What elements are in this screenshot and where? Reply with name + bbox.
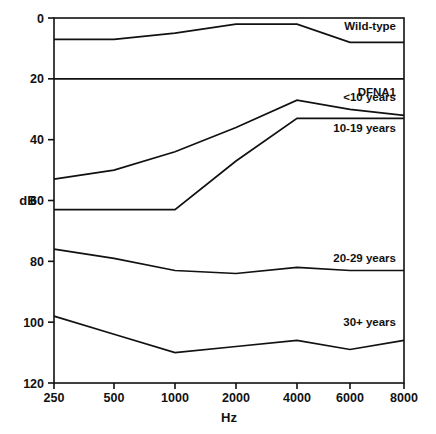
series-label: 30+ years [343, 316, 396, 328]
x-tick-label: 6000 [336, 391, 364, 405]
y-tick-label: 100 [23, 316, 44, 330]
x-axis-tick-labels: 25050010002000400060008000 [44, 391, 418, 405]
series-labels: Wild-type<10 years10-19 years20-29 years… [333, 20, 396, 328]
y-tick-label: 20 [30, 72, 44, 86]
group-label-dfna1: DFNA1 [358, 86, 397, 98]
y-tick-label: 0 [37, 12, 44, 26]
series-label: 20-29 years [333, 252, 396, 264]
audiogram-chart: 020406080100120 250500100020004000600080… [0, 0, 436, 434]
y-tick-label: 120 [23, 377, 44, 391]
x-axis-ticks [54, 383, 404, 389]
x-tick-label: 2000 [222, 391, 250, 405]
audiogram-figure: 020406080100120 250500100020004000600080… [0, 0, 436, 434]
series-label: 10-19 years [333, 122, 396, 134]
x-tick-label: 1000 [161, 391, 189, 405]
series-lines [54, 24, 404, 353]
y-tick-label: 40 [30, 133, 44, 147]
y-axis-title: dB [19, 193, 36, 208]
y-tick-label: 80 [30, 255, 44, 269]
y-axis-ticks [48, 18, 54, 383]
series-label: Wild-type [344, 20, 396, 32]
x-axis-title: Hz [221, 410, 237, 425]
x-tick-label: 500 [104, 391, 125, 405]
x-tick-label: 250 [44, 391, 65, 405]
x-tick-label: 8000 [390, 391, 418, 405]
x-tick-label: 4000 [283, 391, 311, 405]
